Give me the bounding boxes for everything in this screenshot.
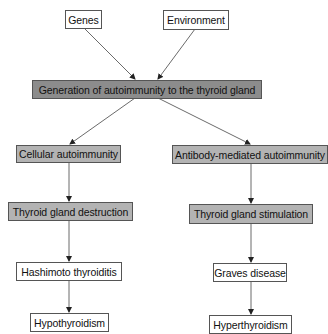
arrow-layer [0,0,328,334]
node-antibody-mediated-autoimmunity: Antibody-mediated autoimmunity [172,145,328,164]
arrow-generation-to-antibody [158,98,250,144]
arrow-generation-to-cellular [70,98,135,144]
node-cellular-autoimmunity: Cellular autoimmunity [16,145,121,163]
node-thyroid-gland-destruction: Thyroid gland destruction [8,202,133,221]
node-generation-of-autoimmunity: Generation of autoimmunity to the thyroi… [32,80,262,99]
node-environment: Environment [163,10,229,30]
node-genes: Genes [65,10,102,29]
node-hypothyroidism: Hypothyroidism [30,313,109,332]
node-hyperthyroidism: Hyperthyroidism [209,315,292,334]
arrow-environment-to-generation [158,29,195,79]
arrow-genes-to-generation [84,28,135,79]
node-thyroid-gland-stimulation: Thyroid gland stimulation [189,204,313,224]
node-graves-disease: Graves disease [213,263,287,282]
node-hashimoto-thyroiditis: Hashimoto thyroiditis [16,262,122,281]
